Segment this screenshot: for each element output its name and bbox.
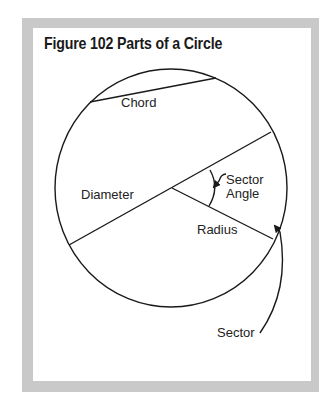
sector-arrow: [260, 226, 283, 333]
sector-angle-label-1: Sector: [226, 172, 264, 187]
sector-label: Sector: [217, 325, 255, 340]
sector-angle-arc: [209, 170, 215, 206]
circle-diagram: Chord Diameter Sector Angle Radius Secto…: [0, 0, 328, 402]
sector-angle-label-2: Angle: [226, 186, 259, 201]
sector-angle-arrow: [214, 174, 226, 187]
radius-label: Radius: [197, 222, 238, 237]
chord-label: Chord: [121, 95, 156, 110]
diameter-label: Diameter: [81, 187, 134, 202]
